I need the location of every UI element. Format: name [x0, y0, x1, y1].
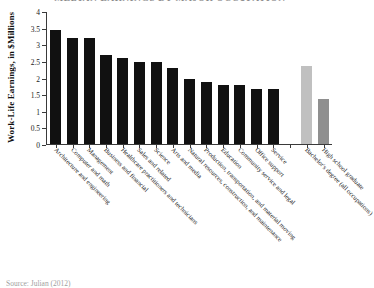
bar-slot[interactable] [198, 12, 215, 144]
y-tick-mark [42, 112, 46, 113]
bar-slot[interactable] [47, 12, 64, 144]
bar[interactable] [50, 30, 61, 144]
bar[interactable] [134, 62, 145, 144]
bar-slot[interactable] [114, 12, 131, 144]
y-axis-title: Work-Life Earnings, in $Millions [6, 8, 16, 146]
bar[interactable] [184, 79, 195, 144]
x-axis-labels: Architecture and engineeringComputer and… [46, 146, 336, 266]
bar-slot[interactable] [165, 12, 182, 144]
y-tick-label: 1 [36, 107, 40, 116]
bar-slot[interactable] [299, 12, 316, 144]
bar[interactable] [117, 58, 128, 144]
bar-slot[interactable] [248, 12, 265, 144]
y-tick-mark [42, 12, 46, 13]
y-tick-label: 0.5 [31, 124, 40, 133]
bar[interactable] [151, 62, 162, 144]
bar-slot[interactable] [64, 12, 81, 144]
y-tick-mark [42, 29, 46, 30]
bar-slot[interactable] [181, 12, 198, 144]
x-axis-label: Bachelor's degree (all occupations) [304, 146, 374, 216]
bar-slot[interactable] [265, 12, 282, 144]
source-note: Source: Julian (2012) [6, 279, 71, 288]
chart-title: MEDIAN EARNINGS BY MAJOR OCCUPATION [0, 0, 340, 1]
bar[interactable] [251, 89, 262, 144]
y-tick-label: 3 [36, 41, 40, 50]
y-tick-label: 4 [36, 8, 40, 17]
y-tick-label: 2.5 [31, 57, 40, 66]
bar-slot[interactable] [232, 12, 249, 144]
bar[interactable] [67, 38, 78, 144]
bar-slot[interactable] [98, 12, 115, 144]
bar[interactable] [218, 85, 229, 144]
bar-slot[interactable] [131, 12, 148, 144]
bar[interactable] [100, 55, 111, 144]
bar[interactable] [318, 99, 329, 144]
bar[interactable] [301, 66, 312, 144]
bar[interactable] [268, 89, 279, 144]
y-tick-label: 3.5 [31, 24, 40, 33]
y-tick-label: 0 [36, 141, 40, 150]
bar[interactable] [201, 82, 212, 144]
y-tick-mark [42, 62, 46, 63]
plot-area: 00.511.522.533.54 [46, 12, 332, 145]
bar[interactable] [84, 38, 95, 144]
y-tick-label: 1.5 [31, 91, 40, 100]
bar-slot[interactable] [215, 12, 232, 144]
y-tick-mark [42, 95, 46, 96]
bar-slot[interactable] [148, 12, 165, 144]
bar-slot[interactable] [282, 12, 299, 144]
bar-series [47, 12, 332, 144]
bar[interactable] [234, 85, 245, 144]
y-tick-label: 2 [36, 74, 40, 83]
y-tick-mark [42, 79, 46, 80]
y-tick-mark [42, 45, 46, 46]
bar-slot[interactable] [81, 12, 98, 144]
bar-slot[interactable] [315, 12, 332, 144]
y-tick-mark [42, 128, 46, 129]
bar[interactable] [167, 68, 178, 144]
